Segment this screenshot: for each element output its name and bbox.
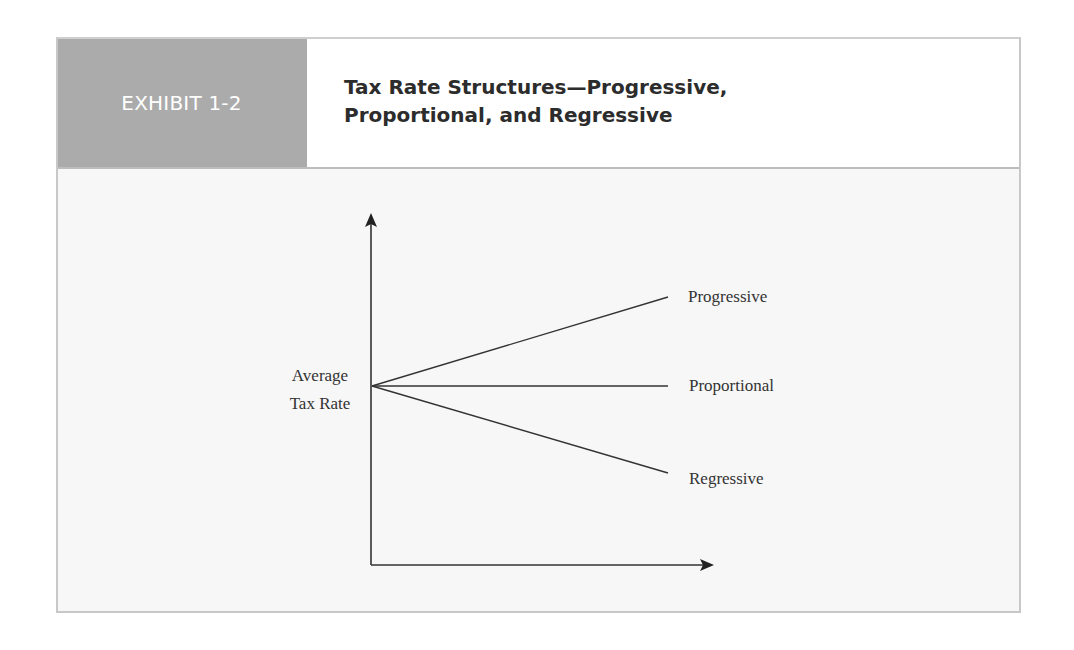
tax-rate-chart: Average Tax Rate Progressive Proportiona… <box>0 0 1074 650</box>
progressive-label: Progressive <box>688 287 767 306</box>
proportional-label: Proportional <box>689 376 774 395</box>
regressive-line <box>372 386 668 473</box>
y-axis-label-line-2: Tax Rate <box>290 394 351 413</box>
progressive-line <box>372 297 668 386</box>
y-axis-label-line-1: Average <box>292 366 348 385</box>
regressive-label: Regressive <box>689 469 764 488</box>
